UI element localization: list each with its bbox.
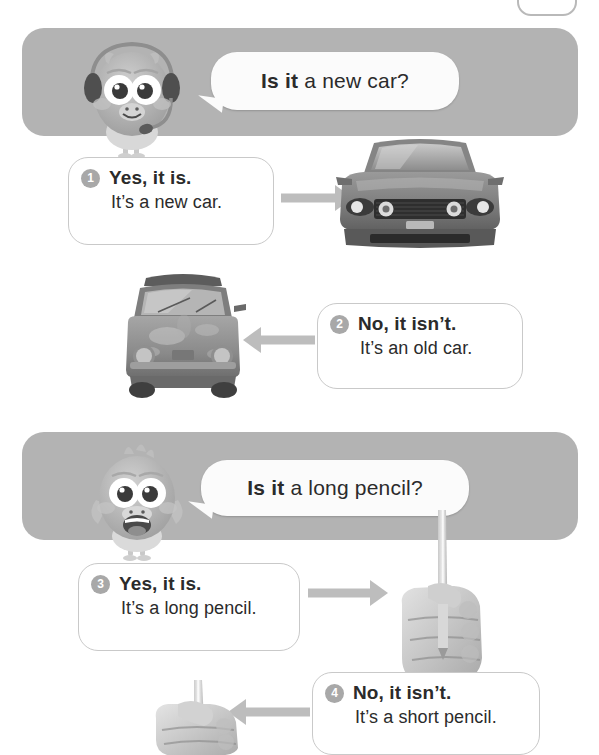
answer-2-bold-text: No, it isn’t. [358, 313, 456, 335]
answer-1-first-line: 1 Yes, it is. [81, 167, 259, 189]
bird-smiling-icon [84, 440, 192, 562]
question-text-car: Is it a new car? [261, 69, 409, 93]
question-bold-car: Is it [261, 69, 298, 92]
worksheet-page: Is it a new car? 1 Yes, it is. It’s a ne… [0, 0, 599, 755]
answer-4-number-badge: 4 [325, 684, 344, 703]
answer-2-plain-text: It’s an old car. [330, 338, 508, 359]
answer-box-2[interactable]: 2 No, it isn’t. It’s an old car. [317, 303, 523, 389]
question-bold-pencil: Is it [247, 476, 284, 499]
answer-3-first-line: 3 Yes, it is. [91, 573, 285, 595]
answer-3-plain-text: It’s a long pencil. [91, 598, 285, 619]
answer-box-3[interactable]: 3 Yes, it is. It’s a long pencil. [78, 563, 300, 651]
answer-1-bold-text: Yes, it is. [109, 167, 191, 189]
long-pencil-photo [398, 508, 508, 683]
speech-bubble-car-question: Is it a new car? [211, 52, 459, 110]
question-text-pencil: Is it a long pencil? [247, 476, 423, 500]
arrow-shaft [308, 589, 371, 598]
question-rest-pencil: a long pencil? [284, 476, 422, 499]
owl-with-headset-icon [76, 32, 188, 160]
answer-box-4[interactable]: 4 No, it isn’t. It’s a short pencil. [312, 672, 540, 755]
answer-2-number-badge: 2 [330, 315, 349, 334]
answer-1-number-badge: 1 [81, 169, 100, 188]
arrow-head [370, 580, 388, 606]
question-rest-car: a new car? [298, 69, 409, 92]
answer-2-first-line: 2 No, it isn’t. [330, 313, 508, 335]
arrow-shaft [260, 336, 315, 345]
answer-1-plain-text: It’s a new car. [81, 192, 259, 213]
answer-3-bold-text: Yes, it is. [119, 573, 201, 595]
old-car-photo [112, 266, 254, 400]
new-car-photo [330, 133, 510, 255]
page-corner-tab [517, 0, 577, 16]
answer-3-number-badge: 3 [91, 575, 110, 594]
answer-4-first-line: 4 No, it isn’t. [325, 682, 525, 704]
arrow-shaft [281, 194, 336, 203]
short-pencil-photo [138, 678, 254, 755]
answer-4-plain-text: It’s a short pencil. [325, 707, 525, 728]
answer-4-bold-text: No, it isn’t. [353, 682, 451, 704]
answer-box-1[interactable]: 1 Yes, it is. It’s a new car. [68, 157, 274, 245]
arrow-shaft [245, 708, 310, 717]
